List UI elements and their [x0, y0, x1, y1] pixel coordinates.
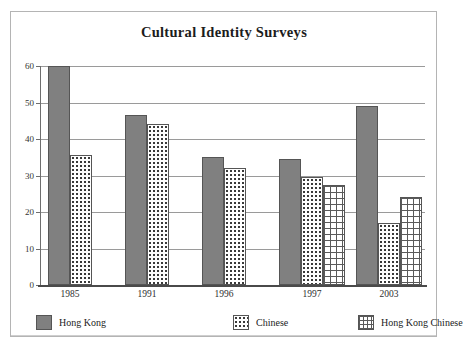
y-tick-label: 30 [6, 172, 34, 181]
legend-item[interactable]: Hong Kong [36, 312, 106, 332]
bar [323, 185, 345, 285]
y-tick-label: 50 [6, 99, 34, 108]
legend-separator [11, 335, 436, 336]
bar-series-container [40, 66, 425, 285]
legend-label: Hong Kong Chinese [381, 317, 463, 328]
bar-group [117, 66, 194, 285]
y-tick-label: 40 [6, 135, 34, 144]
x-axis-line [38, 285, 427, 287]
bar [356, 106, 378, 285]
bar [279, 159, 301, 285]
legend-swatch-icon [233, 315, 249, 330]
legend-label: Chinese [256, 317, 288, 328]
bar [48, 66, 70, 285]
legend-item[interactable]: Hong Kong Chinese [358, 312, 463, 332]
x-tick-label: 1997 [282, 289, 342, 299]
chart-title: Cultural Identity Surveys [0, 24, 448, 41]
y-tick-label: 20 [6, 208, 34, 217]
x-tick-label: 1985 [40, 289, 100, 299]
bar-group [40, 66, 117, 285]
y-tick-label: 10 [6, 245, 34, 254]
plot-area: 0102030405060 [40, 66, 425, 285]
bar-group [194, 66, 271, 285]
bar [147, 124, 169, 285]
x-tick-label: 2003 [359, 289, 419, 299]
legend-swatch-icon [358, 315, 374, 330]
bar-group [271, 66, 348, 285]
x-axis-labels: 19851991199619972003 [40, 289, 425, 307]
bar [400, 197, 422, 285]
bar-group [348, 66, 425, 285]
y-tick-label: 60 [6, 62, 34, 71]
bar [125, 115, 147, 285]
chart-legend: Hong KongChineseHong Kong Chinese [18, 312, 430, 334]
x-tick-label: 1991 [117, 289, 177, 299]
bar [301, 177, 323, 285]
bar [378, 223, 400, 285]
legend-label: Hong Kong [59, 317, 106, 328]
bar [202, 157, 224, 285]
legend-item[interactable]: Chinese [233, 312, 288, 332]
y-tick-label: 0 [6, 281, 34, 290]
bar [224, 168, 246, 285]
legend-swatch-icon [36, 315, 52, 330]
bar [70, 155, 92, 285]
x-tick-label: 1996 [194, 289, 254, 299]
